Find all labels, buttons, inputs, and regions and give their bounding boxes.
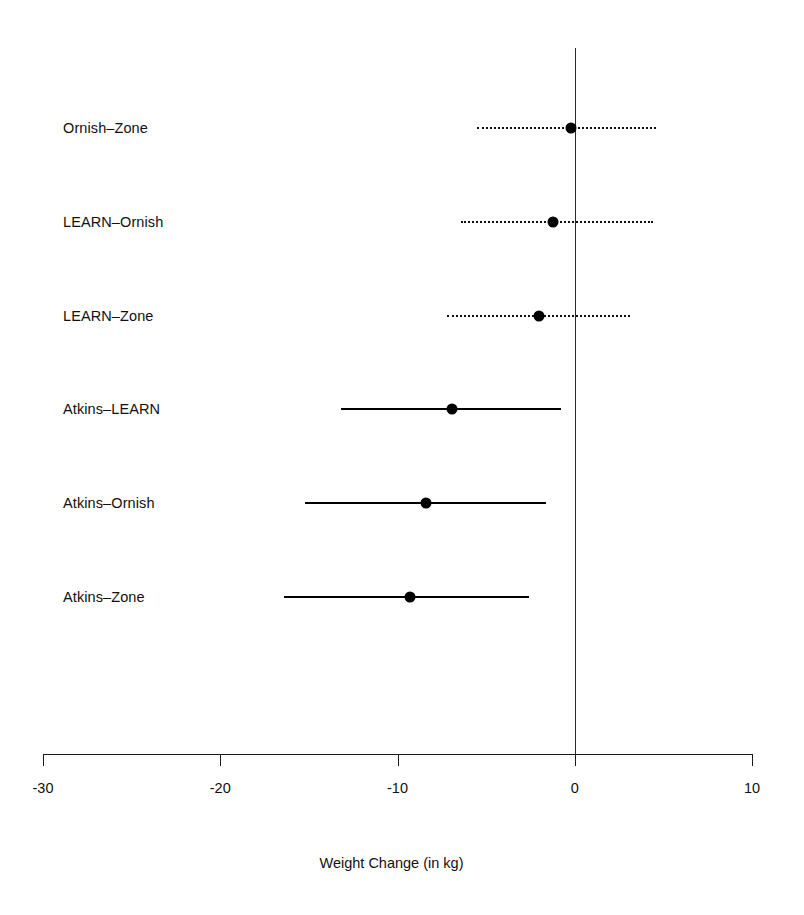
x-tick--30: [43, 754, 44, 766]
x-tick-label-0: 0: [571, 780, 579, 796]
point-estimate-marker-2: [548, 217, 559, 228]
x-tick-label--10: -10: [387, 780, 408, 796]
row-label-4: Atkins–LEARN: [63, 401, 160, 417]
point-estimate-marker-5: [420, 498, 431, 509]
row-label-6: Atkins–Zone: [63, 589, 145, 605]
row-label-1: Ornish–Zone: [63, 120, 148, 136]
x-tick-10: [752, 754, 753, 766]
row-label-3: LEARN–Zone: [63, 308, 153, 324]
forest-plot-figure: Ornish–ZoneLEARN–OrnishLEARN–ZoneAtkins–…: [0, 0, 804, 915]
x-tick-label--30: -30: [33, 780, 54, 796]
point-estimate-marker-3: [534, 311, 545, 322]
x-tick--10: [398, 754, 399, 766]
row-label-5: Atkins–Ornish: [63, 495, 155, 511]
point-estimate-marker-1: [566, 123, 577, 134]
zero-reference-line: [575, 48, 576, 756]
x-tick-label--20: -20: [210, 780, 231, 796]
point-estimate-marker-6: [404, 592, 415, 603]
x-tick-0: [575, 754, 576, 766]
row-label-2: LEARN–Ornish: [63, 214, 163, 230]
x-tick--20: [220, 754, 221, 766]
plot-area: Ornish–ZoneLEARN–OrnishLEARN–ZoneAtkins–…: [0, 0, 804, 915]
x-axis-title: Weight Change (in kg): [319, 855, 463, 871]
point-estimate-marker-4: [447, 404, 458, 415]
x-tick-label-10: 10: [744, 780, 760, 796]
